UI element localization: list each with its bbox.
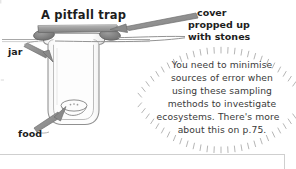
bubble-text-line: using these sampling (152, 85, 292, 96)
figure-page: A pitfall trap cover propped up with sto… (0, 0, 296, 169)
bubble-text-line: about this on p.75. (152, 124, 292, 135)
bubble-text-line: sources of error when (152, 72, 292, 83)
cover-slab (38, 25, 118, 33)
label-with-stones: with stones (188, 31, 250, 42)
label-food: food (18, 128, 42, 139)
label-propped-up: propped up (188, 19, 250, 30)
label-cover: cover (197, 7, 226, 18)
bubble-text-line: ecosystems. There's more (148, 111, 288, 122)
bubble-text-line: methods to investigate (152, 98, 292, 109)
figure-title: A pitfall trap (41, 8, 126, 22)
label-jar: jar (8, 46, 22, 57)
bubble-text-line: You need to minimise (152, 59, 292, 70)
